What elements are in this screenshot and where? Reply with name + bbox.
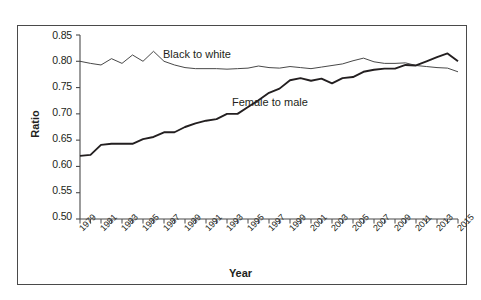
data-line-female-to-male xyxy=(80,53,458,156)
y-axis-ticks xyxy=(76,35,80,219)
axis-lines xyxy=(80,35,458,219)
data-line-black-to-white xyxy=(80,51,458,72)
chart-plot-area xyxy=(0,0,481,300)
x-axis-ticks xyxy=(80,219,458,224)
chart-figure: 0.85 0.80 0.75 0.70 0.65 0.60 0.55 0.50 … xyxy=(0,0,481,300)
